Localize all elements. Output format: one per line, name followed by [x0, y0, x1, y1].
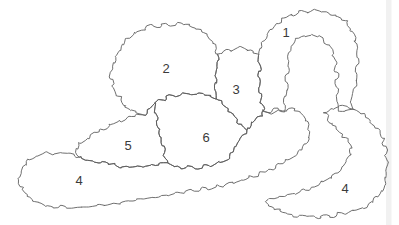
region-4b-label: 4 — [341, 181, 348, 196]
region-5-label: 5 — [124, 138, 131, 153]
region-4a-label: 4 — [75, 173, 82, 188]
region-3-label: 3 — [232, 82, 239, 97]
region-map-figure: 1234564 — [0, 0, 399, 225]
scan-edge-strip — [386, 0, 392, 225]
region-map-svg: 1234564 — [0, 0, 399, 225]
region-1-label: 1 — [282, 25, 289, 40]
region-2-label: 2 — [162, 61, 169, 76]
region-6-label: 6 — [202, 130, 209, 145]
